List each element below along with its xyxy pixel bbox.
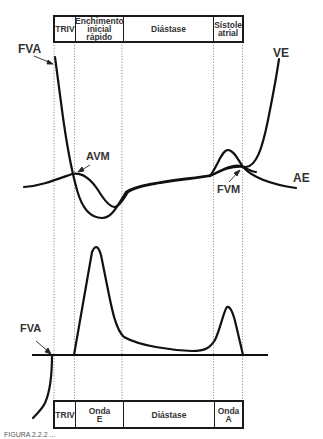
figure-caption: FIGURA 2.2.2 ... — [4, 431, 55, 438]
label-avm: AVM — [86, 150, 110, 162]
bottom-phase-a-wave: Onda A — [215, 402, 242, 427]
top-phase-diastasis: Diástase — [124, 17, 214, 41]
bottom-phase-footer: TRIV Onda E Diástase Onda A — [53, 400, 244, 429]
label-fvm: FVM — [217, 183, 240, 195]
bottom-phase-diastasis: Diástase — [124, 402, 215, 427]
diagram-graphics — [0, 0, 323, 439]
aortic-flow-curve — [33, 355, 52, 418]
label-fva-top: FVA — [18, 42, 41, 56]
mitral-flow-curve — [74, 247, 243, 355]
top-phase-triv: TRIV — [55, 17, 76, 41]
top-phase-header: TRIV Enchimento inicial rápido Diástase … — [53, 15, 244, 43]
top-phase-rapid-filling: Enchimento inicial rápido — [76, 17, 124, 41]
label-ve: VE — [273, 46, 289, 60]
diastolic-phases-diagram: TRIV Enchimento inicial rápido Diástase … — [0, 0, 323, 439]
ve-pressure-curve — [55, 57, 279, 218]
top-phase-atrial-systole: Sístole atrial — [214, 17, 242, 41]
label-ae: AE — [293, 171, 310, 185]
bottom-phase-triv: TRIV — [55, 402, 76, 427]
label-fva-bottom: FVA — [20, 322, 41, 334]
bottom-phase-e-wave: Onda E — [76, 402, 124, 427]
